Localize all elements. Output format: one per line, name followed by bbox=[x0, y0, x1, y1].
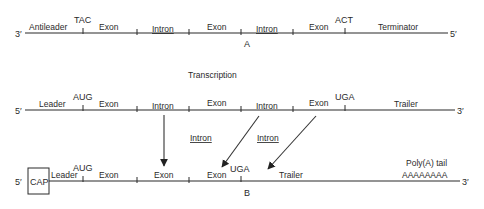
gene-expression-diagram: 3′ 5′ TAC ACT Antileader Exon Intron Exo… bbox=[0, 0, 484, 209]
codon-uga: UGA bbox=[230, 164, 250, 174]
strand-a: 3′ 5′ TAC ACT Antileader Exon Intron Exo… bbox=[15, 15, 457, 49]
codon-aug: AUG bbox=[73, 92, 93, 102]
arrow-diagonal-icon bbox=[222, 116, 259, 167]
poly-a-sequence: AAAAAAAA bbox=[402, 170, 448, 180]
removed-intron-1: Intron bbox=[190, 133, 212, 143]
segment-exon-1: Exon bbox=[99, 170, 119, 180]
strand-a-label: A bbox=[244, 39, 250, 49]
segment-intron-1: Intron bbox=[152, 101, 174, 111]
segment-exon-2: Exon bbox=[154, 170, 174, 180]
segment-intron-1: Intron bbox=[152, 24, 174, 34]
transcript-right-end: 3′ bbox=[457, 106, 464, 116]
removed-intron-2: Intron bbox=[257, 133, 279, 143]
strand-a-right-end: 5′ bbox=[450, 29, 457, 39]
segment-exon-3: Exon bbox=[207, 170, 227, 180]
segment-exon-3: Exon bbox=[309, 98, 329, 108]
segment-exon-3: Exon bbox=[309, 22, 329, 32]
segment-intron-2: Intron bbox=[256, 101, 278, 111]
segment-exon-1: Exon bbox=[99, 22, 119, 32]
segment-exon-1: Exon bbox=[99, 99, 119, 109]
segment-exon-2: Exon bbox=[207, 22, 227, 32]
strand-b-left-end: 5′ bbox=[15, 177, 22, 187]
codon-tac: TAC bbox=[74, 15, 92, 25]
strand-a-left-end: 3′ bbox=[15, 29, 22, 39]
primary-transcript: 5′ 3′ AUG UGA Leader Exon Intron Exon In… bbox=[15, 92, 464, 116]
strand-b-label: B bbox=[244, 188, 250, 198]
segment-leader: Leader bbox=[39, 99, 66, 109]
strand-b: 5′ CAP 3′ AUG UGA Leader Exon Exon Exon … bbox=[15, 158, 469, 198]
segment-terminator: Terminator bbox=[378, 22, 418, 32]
codon-act: ACT bbox=[335, 15, 354, 25]
segment-leader: Leader bbox=[51, 170, 78, 180]
segment-intron-2: Intron bbox=[256, 24, 278, 34]
transcription-label: Transcription bbox=[188, 70, 237, 80]
strand-b-right-end: 3′ bbox=[462, 177, 469, 187]
splicing-arrows bbox=[164, 115, 316, 169]
transcript-left-end: 5′ bbox=[15, 106, 22, 116]
cap-label: CAP bbox=[30, 177, 49, 187]
segment-exon-2: Exon bbox=[207, 98, 227, 108]
codon-uga: UGA bbox=[335, 92, 355, 102]
segment-trailer: Trailer bbox=[279, 170, 303, 180]
segment-trailer: Trailer bbox=[394, 99, 418, 109]
segment-antileader: Antileader bbox=[29, 22, 67, 32]
poly-a-label: Poly(A) tail bbox=[406, 158, 447, 168]
